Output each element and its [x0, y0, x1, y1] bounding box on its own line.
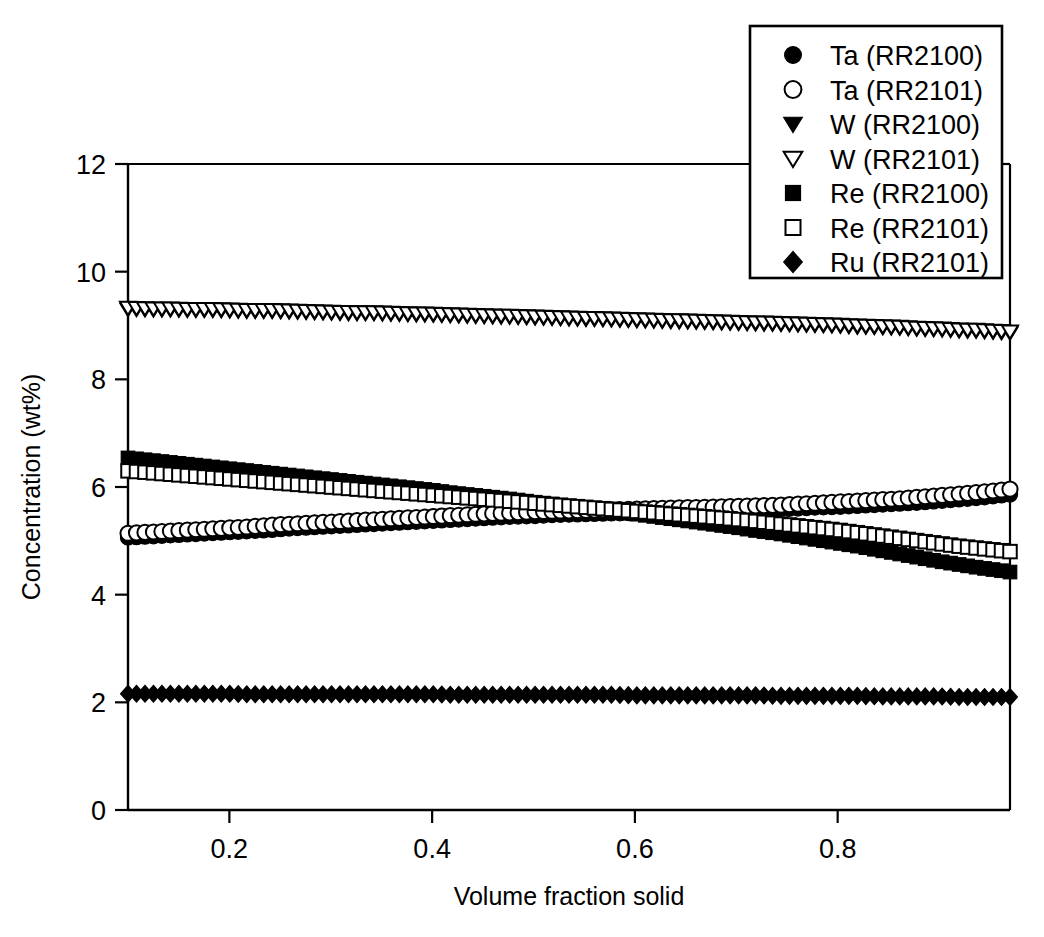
concentration-vs-volume-fraction-chart: 0246810120.20.40.60.8 Volume fraction so… — [0, 0, 1044, 937]
y-tick-label: 0 — [91, 796, 106, 826]
x-tick-label: 0.2 — [211, 834, 249, 864]
chart-figure: 0246810120.20.40.60.8 Volume fraction so… — [0, 0, 1044, 937]
filled-square-marker — [786, 186, 801, 201]
y-tick-label: 4 — [91, 581, 106, 611]
series-filled-diamond-marker — [121, 685, 1018, 705]
x-tick-label: 0.8 — [819, 834, 857, 864]
chart-legend[interactable]: Ta (RR2100)Ta (RR2101)W (RR2100)W (RR210… — [750, 26, 1002, 278]
x-axis-title: Volume fraction solid — [454, 882, 685, 910]
legend-label: Ru (RR2101) — [830, 248, 989, 278]
y-tick-label: 12 — [76, 150, 106, 180]
legend-label: Re (RR2101) — [830, 214, 989, 244]
y-tick-label: 8 — [91, 365, 106, 395]
y-tick-label: 6 — [91, 473, 106, 503]
filled-circle-marker — [785, 47, 802, 64]
y-tick-label: 2 — [91, 688, 106, 718]
open-circle-marker — [785, 81, 802, 98]
legend-label: Ta (RR2101) — [830, 76, 983, 106]
y-tick-label: 10 — [76, 258, 106, 288]
legend-label: W (RR2100) — [830, 110, 980, 140]
y-axis-title: Concentration (wt%) — [17, 374, 45, 600]
x-tick-label: 0.4 — [413, 834, 451, 864]
x-tick-label: 0.6 — [616, 834, 654, 864]
legend-label: Ta (RR2100) — [830, 41, 983, 71]
open-square-marker — [786, 220, 801, 235]
legend-label: W (RR2101) — [830, 145, 980, 175]
legend-label: Re (RR2100) — [830, 179, 989, 209]
